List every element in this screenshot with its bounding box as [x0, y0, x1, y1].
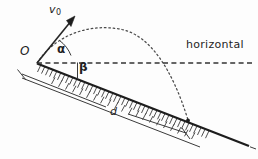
- diagram-canvas: [0, 0, 258, 159]
- initial-velocity-subscript: 0: [56, 8, 61, 17]
- initial-velocity-vector: [37, 21, 72, 64]
- incline-surface-line: [37, 64, 249, 147]
- landing-point-marker: [186, 119, 190, 123]
- incline-extension-dash: [250, 147, 256, 149]
- initial-velocity-symbol: v: [49, 3, 56, 16]
- range-dimension-line: [18, 70, 191, 140]
- launch-angle-label: α: [57, 42, 65, 56]
- incline-angle-label: β: [79, 60, 88, 74]
- incline-slab-hatching: [52, 78, 196, 140]
- physics-diagram: v0 O α β d horizontal: [0, 0, 258, 159]
- initial-velocity-label: v0: [49, 3, 61, 17]
- incline-hatching: [38, 65, 210, 139]
- origin-label: O: [20, 44, 29, 58]
- range-label: d: [110, 105, 117, 118]
- horizontal-label: horizontal: [186, 38, 244, 51]
